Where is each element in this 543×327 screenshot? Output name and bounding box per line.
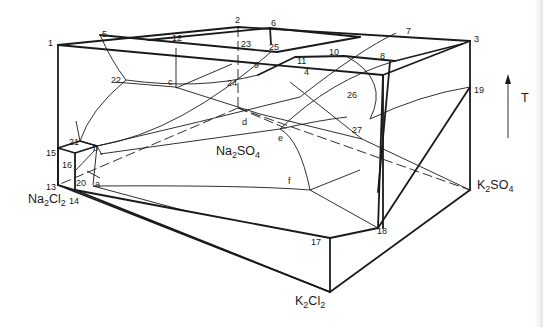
- point-label-a: a: [95, 179, 100, 189]
- point-label-d: d: [242, 117, 247, 127]
- component-label-na2cl2: Na2Cl2: [28, 192, 66, 208]
- point-label-b: b: [93, 143, 98, 153]
- arrow-up-icon: [505, 74, 511, 84]
- point-label-4: 4: [304, 67, 309, 77]
- point-label-5: 5: [102, 29, 107, 39]
- point-label-15: 15: [46, 148, 56, 158]
- point-label-2: 2: [235, 15, 240, 25]
- point-label-8: 8: [380, 51, 385, 61]
- component-label-k2cl2: K2Cl2: [295, 294, 325, 310]
- point-label-17: 17: [311, 237, 321, 247]
- axis-label-t: T: [521, 91, 529, 105]
- point-label-f: f: [288, 176, 291, 186]
- component-label-na2so4: Na2SO4: [216, 144, 260, 160]
- point-label-13: 13: [46, 182, 56, 192]
- point-label-3: 3: [474, 34, 479, 44]
- phase-boundaries: [75, 33, 470, 228]
- point-label-27: 27: [352, 125, 362, 135]
- point-label-19: 19: [474, 85, 484, 95]
- point-label-18: 18: [377, 226, 387, 236]
- point-label-16: 16: [62, 160, 72, 170]
- point-label-24: 24: [227, 78, 237, 88]
- point-label-e: e: [278, 133, 283, 143]
- point-label-1: 1: [48, 38, 53, 48]
- point-label-11: 11: [297, 56, 306, 66]
- point-label-10: 10: [329, 47, 339, 57]
- temperature-axis: T: [505, 74, 529, 138]
- point-label-26: 26: [347, 90, 357, 100]
- phase-diagram-prism: T 1 2 3 4 5 6 7 8 9 10 11 12 13 14 15 16…: [0, 0, 543, 327]
- point-label-20: 20: [76, 178, 86, 188]
- point-label-22: 22: [111, 75, 121, 85]
- point-label-14: 14: [69, 196, 79, 206]
- point-label-9: 9: [254, 60, 259, 70]
- point-label-6: 6: [271, 18, 276, 28]
- point-label-23: 23: [241, 39, 251, 49]
- point-label-c: c: [168, 77, 173, 87]
- component-label-k2so4: K2SO4: [477, 178, 513, 194]
- page-edge-shadow: [535, 0, 543, 327]
- point-label-12: 12: [172, 33, 182, 43]
- point-label-25: 25: [269, 42, 279, 52]
- point-label-7: 7: [406, 26, 411, 36]
- prism-edges: [58, 27, 470, 292]
- point-label-21: 21: [69, 137, 79, 147]
